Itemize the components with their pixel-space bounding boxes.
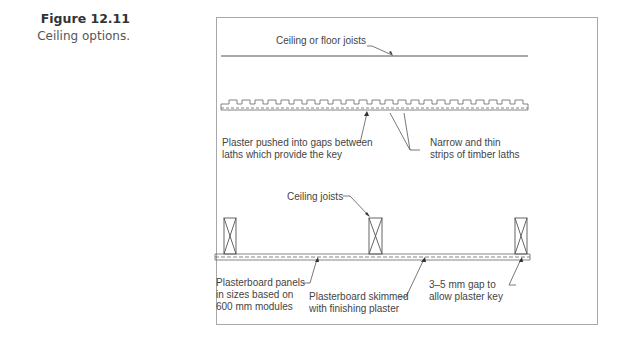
joists-leader: [343, 196, 370, 217]
skim-label-line2: with finishing plaster: [309, 303, 399, 316]
plasterboard: [215, 254, 530, 260]
plaster-label-line2: laths which provide the key: [222, 149, 342, 162]
laths-label-line2: strips of timber laths: [430, 149, 519, 162]
joist-line: [221, 46, 528, 56]
plaster-label-line1: Plaster pushed into gaps between: [222, 137, 373, 150]
gap-label-line1: 3–5 mm gap to: [429, 279, 496, 292]
joist-label: Ceiling or floor joists: [276, 35, 366, 48]
panels-label-line1: Plasterboard panels: [216, 277, 305, 290]
ceiling-joists-label: Ceiling joists: [287, 191, 343, 204]
panels-label-line3: 600 mm modules: [216, 301, 293, 314]
ceiling-joists: [224, 218, 527, 254]
laths-label-line1: Narrow and thin: [430, 137, 501, 150]
gap-label-line2: allow plaster key: [429, 291, 503, 304]
skim-label-line1: Plasterboard skimmed: [309, 291, 408, 304]
lath-strip: [221, 100, 528, 110]
panels-label-line2: in sizes based on: [216, 289, 293, 302]
